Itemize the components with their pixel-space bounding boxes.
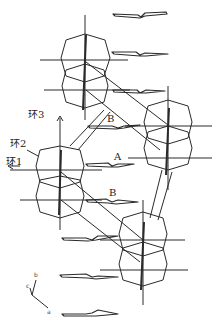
- axis-a-label: a: [47, 309, 51, 315]
- contact-b-lower-label: B: [109, 188, 116, 198]
- ring1-label: 环1: [6, 157, 22, 167]
- axis-b-label: b: [34, 272, 38, 278]
- packing-drawing: [0, 0, 220, 330]
- ring2-label: 环2: [10, 139, 26, 149]
- crystal-packing-diagram: 环3 环2 环1 B A B b c a: [0, 0, 220, 330]
- axes-triad: [30, 280, 48, 308]
- ring3-label: 环3: [28, 110, 44, 120]
- molecule-upper-left: [40, 15, 130, 120]
- axis-c-label: c: [26, 283, 29, 289]
- contact-b-upper-label: B: [107, 114, 114, 124]
- contact-a-label: A: [114, 152, 121, 162]
